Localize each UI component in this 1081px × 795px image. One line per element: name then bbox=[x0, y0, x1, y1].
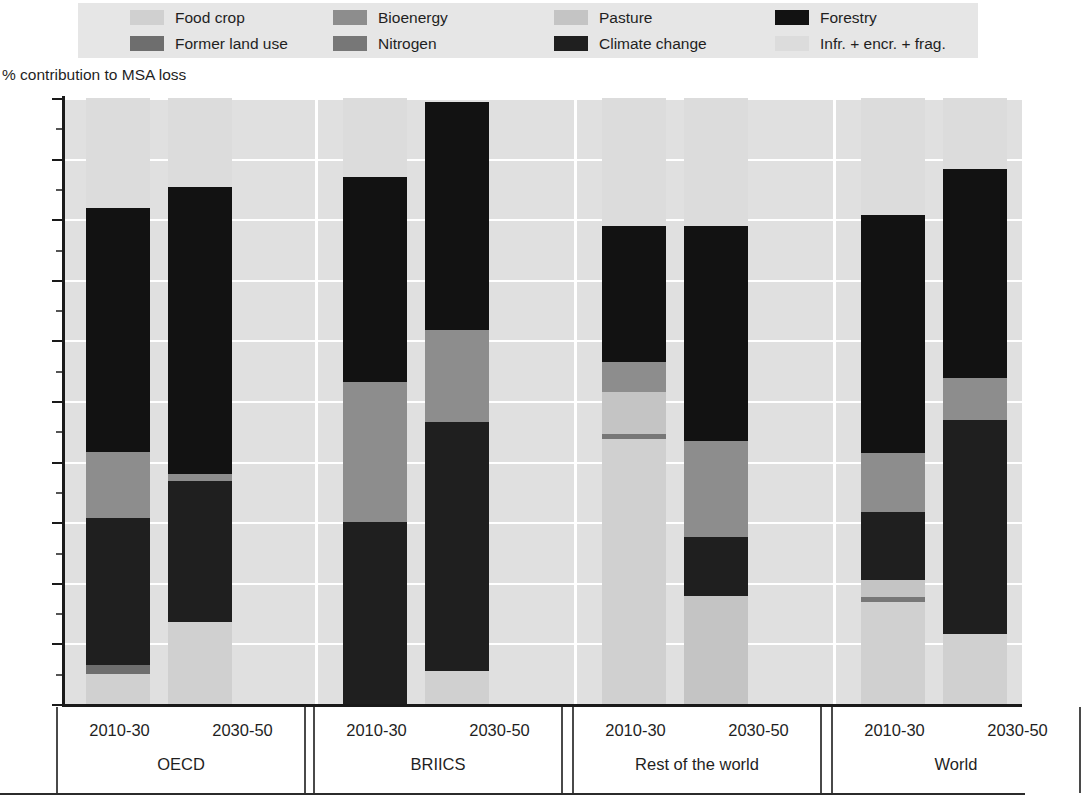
legend-label: Nitrogen bbox=[378, 36, 437, 52]
x-axis-band-briics: 2010-302030-50BRIICS bbox=[313, 707, 563, 793]
y-axis-title: % contribution to MSA loss bbox=[2, 66, 186, 84]
bar-segment-pasture[interactable] bbox=[861, 580, 925, 597]
bar-segment-nitrogen[interactable] bbox=[602, 434, 666, 439]
x-axis-band-world: 2010-302030-50World bbox=[831, 707, 1081, 793]
legend-label: Food crop bbox=[175, 10, 245, 26]
y-tick-major bbox=[52, 280, 62, 282]
bar-segment-infr-encr-frag[interactable] bbox=[86, 98, 150, 208]
y-tick-major bbox=[52, 462, 62, 464]
bar-segment-pasture[interactable] bbox=[602, 392, 666, 434]
bar-segment-infr-encr-frag[interactable] bbox=[943, 98, 1007, 169]
bar-segment-food-crop[interactable] bbox=[861, 602, 925, 704]
bar-segment-climate-change[interactable] bbox=[684, 537, 748, 595]
bar-segment-infr-encr-frag[interactable] bbox=[168, 98, 232, 187]
x-group-label: BRIICS bbox=[315, 755, 561, 774]
bar-segment-food-crop[interactable] bbox=[168, 622, 232, 704]
bar-briics-2030-50[interactable] bbox=[425, 98, 489, 704]
bar-segment-infr-encr-frag[interactable] bbox=[602, 98, 666, 226]
bar-world-2010-30[interactable] bbox=[861, 98, 925, 704]
bar-segment-bioenergy[interactable] bbox=[943, 378, 1007, 420]
legend-item-infr-encr-frag[interactable]: Infr. + encr. + frag. bbox=[753, 36, 978, 52]
bar-segment-infr-encr-frag[interactable] bbox=[861, 98, 925, 215]
bar-segment-food-crop[interactable] bbox=[86, 674, 150, 704]
group-separator bbox=[574, 98, 577, 704]
bar-rest-of-the-world-2010-30[interactable] bbox=[602, 98, 666, 704]
bar-segment-forestry[interactable] bbox=[943, 169, 1007, 378]
legend-label: Bioenergy bbox=[378, 10, 448, 26]
y-tick-minor bbox=[56, 674, 62, 676]
legend-item-nitrogen[interactable]: Nitrogen bbox=[303, 36, 528, 52]
legend-item-pasture[interactable]: Pasture bbox=[528, 10, 753, 26]
bar-segment-forestry[interactable] bbox=[684, 226, 748, 441]
y-tick-major bbox=[52, 704, 62, 706]
bar-segment-forestry[interactable] bbox=[602, 226, 666, 361]
x-axis-periods: 2010-302030-50 bbox=[574, 721, 820, 740]
legend-label: Infr. + encr. + frag. bbox=[820, 36, 946, 52]
x-period-label: 2010-30 bbox=[864, 721, 925, 740]
bar-segment-climate-change[interactable] bbox=[168, 481, 232, 622]
bar-segment-climate-change[interactable] bbox=[425, 422, 489, 672]
bar-segment-bioenergy[interactable] bbox=[861, 453, 925, 512]
x-period-label: 2010-30 bbox=[346, 721, 407, 740]
bar-briics-2010-30[interactable] bbox=[343, 98, 407, 704]
bar-segment-bioenergy[interactable] bbox=[425, 330, 489, 422]
x-period-label: 2030-50 bbox=[987, 721, 1048, 740]
y-tick-minor bbox=[56, 250, 62, 252]
bar-segment-bioenergy[interactable] bbox=[684, 441, 748, 537]
y-tick-minor bbox=[56, 492, 62, 494]
bar-segment-forestry[interactable] bbox=[343, 177, 407, 382]
bar-segment-forestry[interactable] bbox=[86, 208, 150, 452]
legend-label: Former land use bbox=[175, 36, 288, 52]
legend-label: Climate change bbox=[599, 36, 707, 52]
chart-legend: Food cropBioenergyPastureForestryFormer … bbox=[78, 3, 978, 58]
y-tick-major bbox=[52, 98, 62, 100]
bar-world-2030-50[interactable] bbox=[943, 98, 1007, 704]
bar-segment-climate-change[interactable] bbox=[86, 518, 150, 665]
bar-segment-former-land-use[interactable] bbox=[86, 665, 150, 674]
legend-row: Food cropBioenergyPastureForestry bbox=[78, 5, 978, 31]
bar-segment-food-crop[interactable] bbox=[943, 634, 1007, 704]
legend-swatch-climate-change-icon bbox=[554, 36, 588, 51]
legend-item-food-crop[interactable]: Food crop bbox=[78, 10, 303, 26]
y-tick-minor bbox=[56, 613, 62, 615]
bar-segment-forestry[interactable] bbox=[861, 215, 925, 453]
legend-label: Forestry bbox=[820, 10, 877, 26]
legend-item-former-land-use[interactable]: Former land use bbox=[78, 36, 303, 52]
bar-segment-pasture[interactable] bbox=[684, 596, 748, 704]
legend-swatch-food-crop-icon bbox=[130, 10, 164, 25]
bar-segment-nitrogen[interactable] bbox=[861, 597, 925, 602]
y-tick-minor bbox=[56, 371, 62, 373]
bar-segment-climate-change[interactable] bbox=[943, 420, 1007, 635]
bar-segment-food-crop[interactable] bbox=[602, 439, 666, 704]
group-separator bbox=[315, 98, 318, 704]
legend-swatch-bioenergy-icon bbox=[333, 10, 367, 25]
legend-swatch-forestry-icon bbox=[775, 10, 809, 25]
x-axis-periods: 2010-302030-50 bbox=[315, 721, 561, 740]
y-tick-major bbox=[52, 643, 62, 645]
legend-item-bioenergy[interactable]: Bioenergy bbox=[303, 10, 528, 26]
bar-segment-bioenergy[interactable] bbox=[343, 382, 407, 522]
legend-item-forestry[interactable]: Forestry bbox=[753, 10, 978, 26]
x-period-label: 2030-50 bbox=[469, 721, 530, 740]
bar-segment-forestry[interactable] bbox=[168, 187, 232, 474]
bar-segment-food-crop[interactable] bbox=[425, 671, 489, 704]
bar-segment-climate-change[interactable] bbox=[861, 512, 925, 580]
bar-segment-bioenergy[interactable] bbox=[168, 474, 232, 481]
bar-oecd-2030-50[interactable] bbox=[168, 98, 232, 704]
y-tick-major bbox=[52, 522, 62, 524]
bar-segment-infr-encr-frag[interactable] bbox=[684, 98, 748, 226]
x-period-label: 2030-50 bbox=[212, 721, 273, 740]
bar-segment-infr-encr-frag[interactable] bbox=[343, 98, 407, 177]
legend-item-climate-change[interactable]: Climate change bbox=[528, 36, 753, 52]
y-tick-major bbox=[52, 401, 62, 403]
y-tick-minor bbox=[56, 553, 62, 555]
bar-segment-forestry[interactable] bbox=[425, 102, 489, 330]
legend-swatch-former-land-use-icon bbox=[130, 36, 164, 51]
bar-segment-bioenergy[interactable] bbox=[86, 452, 150, 518]
bar-oecd-2010-30[interactable] bbox=[86, 98, 150, 704]
bar-segment-climate-change[interactable] bbox=[343, 522, 407, 704]
bar-rest-of-the-world-2030-50[interactable] bbox=[684, 98, 748, 704]
bar-segment-bioenergy[interactable] bbox=[602, 362, 666, 392]
x-axis-band-oecd: 2010-302030-50OECD bbox=[56, 707, 306, 793]
